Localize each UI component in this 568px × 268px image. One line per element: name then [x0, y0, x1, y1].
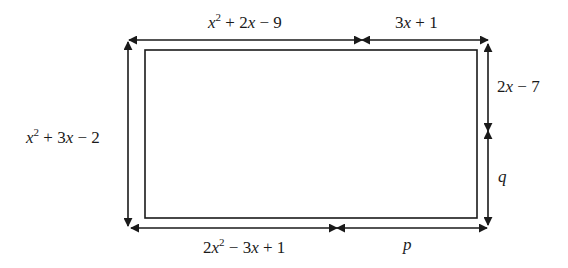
- label-right-top: 2x − 7: [497, 77, 540, 96]
- label-bottom-left: 2x2 − 3x + 1: [203, 236, 285, 257]
- label-bottom-right: p: [402, 235, 412, 254]
- label-top-left: x2 + 2x − 9: [207, 11, 282, 32]
- rectangle-shape: [145, 50, 477, 218]
- label-top-right: 3x + 1: [395, 13, 438, 32]
- rectangle-diagram: x2 + 2x − 9 3x + 1 x2 + 3x − 2 2x − 7 q …: [0, 0, 568, 268]
- label-left: x2 + 3x − 2: [25, 126, 100, 147]
- label-right-bottom: q: [498, 167, 507, 186]
